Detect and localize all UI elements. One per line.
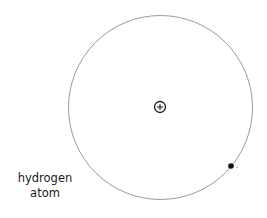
title-line-1: hydrogen <box>12 171 78 186</box>
nucleus <box>155 102 166 113</box>
electron <box>228 163 234 169</box>
title-line-2: atom <box>12 186 78 201</box>
diagram-title: hydrogen atom <box>12 171 78 201</box>
electron-charge-label: - <box>236 163 239 171</box>
